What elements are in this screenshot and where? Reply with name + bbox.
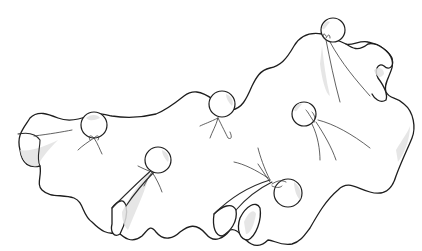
ball-4 [321, 18, 345, 42]
ball-5 [292, 102, 316, 126]
cloth-illustration [0, 0, 422, 251]
ball-tie-4 [321, 18, 345, 42]
ball-tie-5 [292, 102, 316, 126]
